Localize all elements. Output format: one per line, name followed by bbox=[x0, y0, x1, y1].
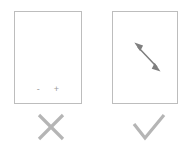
zoom-out-button[interactable]: - bbox=[37, 85, 40, 94]
panel-do-pinch-gesture bbox=[112, 11, 178, 104]
check-icon bbox=[131, 112, 167, 142]
instruction-figure: - + bbox=[0, 0, 193, 146]
cross-icon bbox=[36, 112, 66, 142]
zoom-button-group: - + bbox=[15, 85, 81, 94]
zoom-in-button[interactable]: + bbox=[54, 85, 59, 94]
panel-dont-zoom-buttons: - + bbox=[14, 11, 82, 104]
double-headed-diagonal-arrow-icon bbox=[113, 12, 177, 103]
